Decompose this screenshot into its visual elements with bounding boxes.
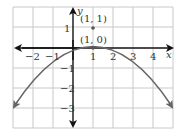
x-axis-label: x [166,49,172,60]
foot-label: (1, 0) [80,34,107,45]
parabola-graph: x y (1, 1) (1, 0) −2 −1 1 2 3 4 1 −1 −2 … [0,0,183,129]
x-tick-4: 4 [150,51,156,62]
x-tick-3: 3 [130,51,136,62]
y-tick-neg1: −1 [60,63,75,74]
y-tick-neg2: −2 [60,83,75,94]
vertex-label: (1, 1) [80,13,107,24]
vertex-point [91,26,95,30]
x-tick-neg2: −2 [25,51,40,62]
x-tick-1: 1 [90,51,96,62]
foot-point [91,46,95,50]
grid [13,7,173,128]
x-tick-neg1: −1 [45,51,60,62]
x-tick-2: 2 [110,51,116,62]
y-tick-neg3: −3 [60,103,75,114]
y-tick-1: 1 [64,23,70,34]
